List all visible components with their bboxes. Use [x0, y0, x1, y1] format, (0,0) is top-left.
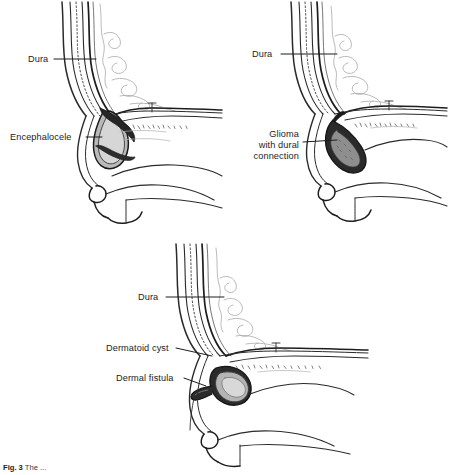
figure-caption: Fig. 3 The ...: [3, 463, 446, 472]
nasal-tip: [318, 184, 335, 201]
brain-gyri: [331, 6, 406, 109]
palate-contour: [112, 165, 222, 176]
nasal-cavity-lines: [258, 371, 310, 373]
skull-base-lower: [345, 114, 447, 120]
cheek-contour: [106, 185, 214, 200]
skull-base-lower: [118, 116, 222, 122]
figure-caption-prefix: Fig. 3: [3, 463, 23, 472]
label-dermatoid-cyst: Dermatoid cyst: [106, 343, 169, 353]
dura-inner-line: [93, 2, 117, 116]
cribriform-stipple: [128, 125, 187, 129]
brain-gyri: [100, 4, 175, 111]
panel-glioma: Dura Glioma with dural connection: [225, 0, 449, 237]
nasal-cavity-lines: [371, 127, 417, 129]
panel-encephalocele: Dura Encephalocele: [0, 0, 224, 237]
figure-caption-body: The ...: [23, 463, 47, 472]
oral-contour: [355, 197, 447, 207]
upper-lip: [108, 212, 142, 223]
palate-contour: [365, 139, 447, 150]
label-encephalocele: Encephalocele: [10, 132, 72, 142]
cribriform-stipple: [236, 365, 321, 369]
label-dura: Dura: [252, 49, 273, 59]
columella: [323, 200, 337, 216]
cheek-contour: [218, 431, 334, 446]
figure-root: Dura Encephalocele: [0, 0, 449, 475]
nasal-tip: [89, 186, 106, 203]
oral-contour: [126, 199, 222, 209]
dura-line: [202, 244, 226, 356]
columella: [94, 202, 108, 218]
label-dura: Dura: [28, 54, 49, 64]
label-dermal-fistula: Dermal fistula: [116, 373, 174, 383]
dura-line: [317, 2, 341, 114]
cheek-contour: [335, 183, 441, 198]
label-dura: Dura: [138, 292, 159, 302]
label-glioma-line-2: with dural: [258, 140, 299, 150]
palate-contour: [250, 383, 354, 395]
panel-dermoid: Dura Dermatoid cyst Dermal fistula: [80, 240, 370, 468]
brain-gyri: [216, 248, 291, 351]
nasal-tip: [201, 432, 218, 449]
leader-line-dermal-fistula: [184, 378, 206, 386]
skull-base-lower: [230, 356, 368, 362]
label-glioma-line-3: connection: [254, 151, 299, 161]
label-glioma-line-1: Glioma: [269, 129, 299, 139]
upper-lip: [337, 210, 371, 221]
columella: [206, 448, 218, 462]
nasal-dorsum-inner: [314, 114, 328, 184]
